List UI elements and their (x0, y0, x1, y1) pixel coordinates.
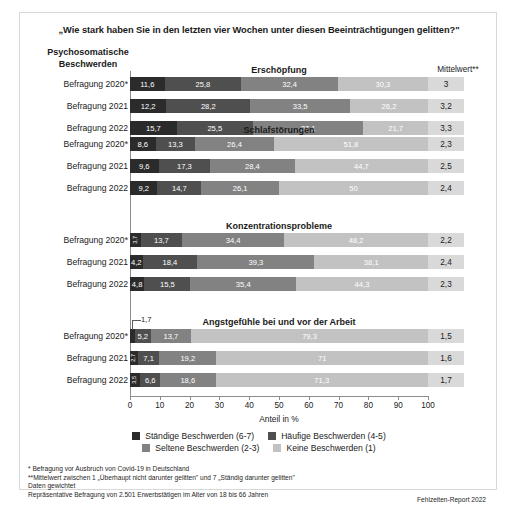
mittelwert-value: 2,4 (428, 181, 464, 195)
bar-value-label: 17,3 (177, 162, 192, 171)
source-credit: Fehlzeiten-Report 2022 (417, 496, 486, 503)
row-label: Befragung 2022 (24, 279, 128, 289)
row-label: Befragung 2021 (24, 257, 128, 267)
bar-value-label: 28,4 (245, 162, 260, 171)
x-axis-tick (339, 396, 340, 400)
legend-swatch-haeufige (268, 432, 276, 440)
bar-segment: 28,4 (210, 159, 295, 173)
x-axis-tick-label: 100 (416, 401, 440, 410)
stacked-bar: 2,77,119,271 (130, 351, 428, 365)
row-label: Befragung 2020* (24, 139, 128, 149)
group-title-2: Schlafstörungen (130, 125, 428, 135)
bar-segment: 12,2 (130, 99, 166, 113)
bar-segment: 28,2 (166, 99, 250, 113)
bar-value-label: 25,8 (196, 80, 211, 89)
bar-segment: 3,5 (130, 373, 140, 387)
bar-segment: 44,3 (296, 277, 428, 291)
mittelwert-value: 1,5 (428, 329, 464, 343)
bar-value-label: 8,6 (138, 140, 149, 149)
bar-value-label: 33,5 (293, 102, 308, 111)
x-axis-tick (368, 396, 369, 400)
bar-value-label: 39,3 (249, 258, 264, 267)
legend-item-seltene: Seltene Beschwerden (2-3) (142, 443, 259, 453)
stacked-bar: 8,613,326,451,8 (130, 137, 428, 151)
legend-item-staendige: Ständige Beschwerden (6-7) (132, 431, 254, 441)
x-axis-tick-label: 30 (207, 401, 231, 410)
bar-value-label: 71,3 (314, 376, 329, 385)
bar-value-label: 26,4 (227, 140, 242, 149)
callout-leader-line (132, 320, 141, 330)
mittelwert-value: 2,5 (428, 159, 464, 173)
mittelwert-value: 2,2 (428, 233, 464, 247)
bar-segment: 6,6 (140, 373, 160, 387)
bar-segment: 7,1 (138, 351, 159, 365)
x-axis-tick (160, 396, 161, 400)
x-axis-tick (279, 396, 280, 400)
row-label: Befragung 2020* (24, 79, 128, 89)
bar-segment: 48,2 (284, 233, 428, 247)
legend-item-haeufige: Häufige Beschwerden (4-5) (268, 431, 386, 441)
row-label: Befragung 2021 (24, 101, 128, 111)
bar-value-label: 34,4 (226, 236, 241, 245)
bar-segment: 17,3 (159, 159, 211, 173)
bar-value-label: 9,2 (138, 184, 149, 193)
bar-segment: 8,6 (130, 137, 156, 151)
stacked-bar: 12,228,233,526,2 (130, 99, 428, 113)
stacked-bar: 1,75,213,779,3 (130, 329, 428, 343)
bar-value-label: 28,2 (201, 102, 216, 111)
row-label: Befragung 2022 (24, 375, 128, 385)
bar-value-label: 44,3 (355, 280, 370, 289)
legend-swatch-seltene (142, 444, 150, 452)
x-axis-tick-label: 70 (327, 401, 351, 410)
x-axis-tick (309, 396, 310, 400)
callout-label: 1,7 (141, 315, 152, 324)
bar-segment: 11,6 (130, 77, 165, 91)
x-axis-tick-label: 20 (178, 401, 202, 410)
stacked-bar: 4,815,535,444,3 (130, 277, 428, 291)
bar-segment: 2,7 (130, 351, 138, 365)
bar-segment: 4,8 (130, 277, 144, 291)
bar-value-label: 50 (349, 184, 357, 193)
bar-value-label: 79,3 (302, 332, 317, 341)
legend-label-haeufige: Häufige Beschwerden (4-5) (281, 431, 386, 441)
bar-segment: 32,4 (241, 77, 337, 91)
legend-swatch-staendige (132, 432, 140, 440)
bar-segment: 33,5 (250, 99, 350, 113)
bar-value-label: 18,6 (180, 376, 195, 385)
bar-segment: 25,8 (165, 77, 242, 91)
bar-value-label: 35,4 (236, 280, 251, 289)
bar-value-label: 71 (318, 354, 326, 363)
bar-segment: 13,3 (156, 137, 196, 151)
stacked-bar: 3,56,618,671,3 (130, 373, 428, 387)
bar-value-label: 3,7 (133, 236, 139, 244)
bar-segment: 13,7 (141, 233, 182, 247)
bar-value-label: 6,6 (145, 376, 156, 385)
bar-segment: 4,2 (130, 255, 143, 269)
bar-value-label: 7,1 (143, 354, 154, 363)
bar-value-label: 13,7 (154, 236, 169, 245)
bar-value-label: 4,2 (131, 258, 142, 267)
x-axis-tick-label: 60 (297, 401, 321, 410)
x-axis-tick (249, 396, 250, 400)
stacked-bar: 9,214,726,150 (130, 181, 428, 195)
x-axis-tick-label: 80 (356, 401, 380, 410)
bar-segment: 18,6 (160, 373, 215, 387)
stacked-bar: 9,617,328,444,7 (130, 159, 428, 173)
bar-segment: 14,7 (157, 181, 201, 195)
bar-value-label: 4,8 (132, 280, 143, 289)
bar-segment: 3,7 (130, 233, 141, 247)
bar-segment: 44,7 (295, 159, 428, 173)
bar-value-label: 15,5 (160, 280, 175, 289)
legend-item-keine: Keine Beschwerden (1) (273, 443, 375, 453)
stacked-bar: 11,625,832,430,3 (130, 77, 428, 91)
legend-row-2: Seltene Beschwerden (2-3) Keine Beschwer… (20, 443, 498, 453)
bar-segment: 30,3 (338, 77, 428, 91)
mittelwert-value: 3,2 (428, 99, 464, 113)
bar-value-label: 13,3 (168, 140, 183, 149)
chart-legend: Ständige Beschwerden (6-7) Häufige Besch… (20, 431, 498, 455)
group-title-1: Erschöpfung (130, 65, 428, 75)
bar-value-label: 19,2 (180, 354, 195, 363)
x-axis-tick (130, 396, 131, 400)
bar-segment: 39,3 (197, 255, 314, 269)
x-axis-tick (219, 396, 220, 400)
